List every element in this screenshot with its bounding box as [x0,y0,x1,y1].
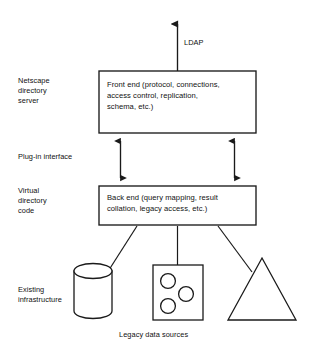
diagram-canvas: LDAP Netscape directory server Plug-in i… [0,0,310,355]
existing-infrastructure-label: Existing infrastructure [18,285,62,305]
triangle-source-icon [228,258,296,320]
legacy-data-sources-caption: Legacy data sources [119,330,188,340]
backend-to-cylinder-connector [107,226,137,273]
backend-to-triangle-connector [218,226,252,272]
document-square-icon [153,265,203,320]
ldap-label: LDAP [184,38,204,48]
netscape-directory-server-label: Netscape directory server [18,76,50,107]
plugin-interface-label: Plug-in interface [18,152,72,162]
database-cylinder-icon [74,264,112,319]
back-end-box-text: Back end (query mapping, result collatio… [107,192,253,214]
virtual-directory-code-label: Virtual directory code [18,186,47,217]
front-end-box-text: Front end (protocol, connections, access… [107,79,253,113]
